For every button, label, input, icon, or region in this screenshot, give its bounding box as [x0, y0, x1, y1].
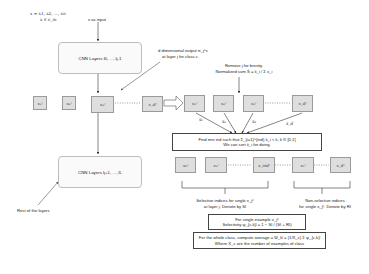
find-min-line2: We can sort x̄_i for doing.: [223, 142, 270, 147]
input-label: x as input: [88, 17, 106, 22]
layer-output-node: x_dʲ: [142, 96, 163, 112]
output-annotation-line1: d dimensional output π_j^c: [158, 48, 208, 53]
normalized-output-node: x₁ʲ: [184, 95, 205, 112]
cnn-layers-bottom-label: CNN Layers lj+1, ..., lL: [78, 170, 122, 175]
selective-label-line2: at layer j. Denote by SI: [185, 204, 265, 209]
normalized-output-node: x₂ʲ: [213, 95, 234, 112]
sorted-output-node: x₁ʲ: [292, 157, 314, 173]
cnn-layers-top: CNN Layers l0, ..., lj-1: [58, 42, 142, 74]
edge-label: x̄₁: [199, 117, 203, 122]
class-average-box: For the whole class, compute average = Ψ…: [193, 232, 326, 249]
cnn-layers-top-label: CNN Layers l0, ..., lj-1: [79, 56, 122, 61]
sorted-output-node: x₁ʲ: [205, 157, 227, 173]
selectivity-line2: Selectivity ψ_{c,k}ʲ = 1 − SI / (SI + RI…: [222, 222, 291, 227]
cnn-layers-bottom: CNN Layers lj+1, ..., lL: [58, 156, 142, 188]
input-membership: x ∈ c_m: [40, 17, 57, 22]
nonselective-label-line1: Non-selective indices: [285, 198, 365, 203]
normalized-output-node: x₃ʲ: [243, 95, 264, 112]
sorted-output-node: x₀ʲ: [175, 157, 196, 173]
normalize-annotation-line2: Normalized sum S̄ = x̄_i / Σ x_i: [206, 69, 282, 74]
selectivity-box: For single example x_jᶜ Selectivity ψ_{c…: [208, 214, 306, 230]
class-average-line2: Where X_c are the number of examples of …: [215, 241, 304, 246]
edge-label: x̄_d: [286, 121, 293, 126]
input-sequence: x = x1, x2, ..., xn: [30, 11, 66, 16]
nonselective-label-line2: for single x_jᶜ. Denote by RI: [285, 204, 365, 209]
edge-label: x̄₃: [252, 119, 256, 124]
edge-label: x̄₂: [222, 119, 226, 124]
rest-of-layers-label: Rest of the layers: [17, 208, 50, 213]
normalized-output-node: x_dʲ: [292, 95, 313, 112]
find-min-box: Find min ind such that Σ_{i=1}^{ind} x̄_…: [172, 133, 322, 151]
sorted-output-node: x_indʲ: [253, 157, 275, 173]
normalize-annotation-line1: Remove j for brevity.: [214, 63, 274, 68]
sorted-output-node: x_dʲ: [330, 157, 351, 173]
selective-label-line1: Selective indices for single x_jᶜ: [185, 198, 265, 203]
layer-output-node: x₁ʲ: [33, 96, 47, 110]
output-annotation-line2: at layer j for class c.: [162, 54, 199, 59]
layer-output-node: x₂ʲ: [62, 96, 76, 110]
layer-output-node: x₃ʲ: [91, 96, 114, 113]
